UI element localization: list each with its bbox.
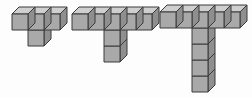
figure-container: Growing T-shaped cube pattern Three stac… xyxy=(0,0,252,97)
cube-front-face xyxy=(192,28,208,44)
cube-top-1 xyxy=(160,5,183,28)
cube-front-face xyxy=(104,30,120,46)
cube-pattern-illustration xyxy=(0,0,252,97)
cube-top-1 xyxy=(72,7,95,30)
figure-3-top-row xyxy=(160,5,247,28)
figure-3-stem xyxy=(192,21,215,92)
cube-front-face xyxy=(28,30,44,46)
cube-front-face xyxy=(12,14,28,30)
cube-front-face xyxy=(192,44,208,60)
cube-front-face xyxy=(72,14,88,30)
cube-front-face xyxy=(104,46,120,62)
cube-front-face xyxy=(160,12,176,28)
cube-front-face xyxy=(192,76,208,92)
cube-top-1 xyxy=(12,7,35,30)
cube-front-face xyxy=(192,60,208,76)
figure-2-top-row xyxy=(72,7,159,30)
figure-1-top-row xyxy=(12,7,67,30)
